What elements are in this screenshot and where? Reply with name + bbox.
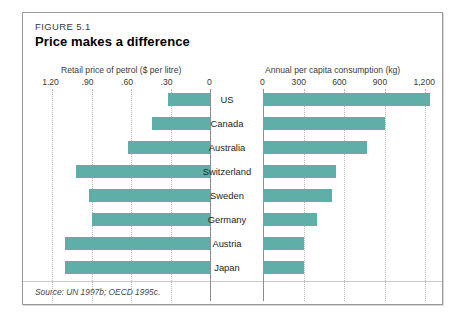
figure-number: FIGURE 5.1 xyxy=(35,21,91,32)
right-tick-label: 0 xyxy=(260,77,265,87)
source-divider xyxy=(23,281,442,282)
category-label: Austria xyxy=(189,238,265,249)
bar-consumption xyxy=(263,189,332,202)
category-label: Japan xyxy=(189,262,265,273)
right-gridline xyxy=(425,89,427,301)
bar-consumption xyxy=(263,117,385,130)
bar-consumption xyxy=(263,141,367,154)
right-gridline xyxy=(385,89,387,301)
bar-consumption xyxy=(263,261,304,274)
left-gridline xyxy=(52,89,54,301)
left-tick-label: .90 xyxy=(82,77,94,87)
category-label: Australia xyxy=(189,142,265,153)
bar-consumption xyxy=(263,165,336,178)
right-tick-label: 900 xyxy=(373,77,387,87)
category-label: Sweden xyxy=(189,190,265,201)
category-label: Germany xyxy=(189,214,265,225)
category-label: Switzerland xyxy=(189,166,265,177)
bar-consumption xyxy=(263,237,304,250)
left-tick-label: .60 xyxy=(121,77,133,87)
bar-consumption xyxy=(263,93,430,106)
left-tick-label: 0 xyxy=(207,77,212,87)
bar-consumption xyxy=(263,213,317,226)
category-label: US xyxy=(189,94,265,105)
left-tick-label: 1.20 xyxy=(42,77,59,87)
right-tick-label: 300 xyxy=(292,77,306,87)
left-axis-caption: Retail price of petrol ($ per litre) xyxy=(61,65,181,75)
category-label: Canada xyxy=(189,118,265,129)
figure-title: Price makes a difference xyxy=(35,34,190,49)
figure-frame: FIGURE 5.1 Price makes a difference Reta… xyxy=(22,12,443,305)
left-tick-label: .30 xyxy=(161,77,173,87)
right-tick-label: 600 xyxy=(332,77,346,87)
right-axis-caption: Annual per capita consumption (kg) xyxy=(265,65,400,75)
right-tick-label: 1,200 xyxy=(413,77,435,87)
